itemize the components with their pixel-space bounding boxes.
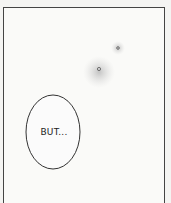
tone-blob-large: [83, 56, 115, 88]
panel-artwork: [0, 0, 171, 203]
tone-blob-small: [111, 41, 125, 55]
speech-bubble-text: BUT...: [36, 127, 72, 137]
